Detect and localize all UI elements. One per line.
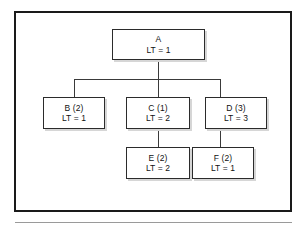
diagram-frame: A LT = 1 B (2) LT = 1 C (1) LT = 2 D (3)… bbox=[14, 11, 292, 212]
node-c-lead-time: LT = 2 bbox=[146, 113, 170, 123]
node-d-name: D (3) bbox=[226, 103, 245, 113]
node-b-lead-time: LT = 1 bbox=[62, 113, 86, 123]
node-d[interactable]: D (3) LT = 3 bbox=[205, 97, 267, 129]
node-f[interactable]: F (2) LT = 1 bbox=[192, 147, 254, 179]
connector-bus-to-b bbox=[74, 79, 75, 97]
node-f-lead-time: LT = 1 bbox=[211, 163, 235, 173]
connector-d-to-f bbox=[220, 129, 221, 147]
node-e-name: E (2) bbox=[149, 153, 168, 163]
connector-bus-horizontal bbox=[74, 79, 221, 80]
node-a[interactable]: A LT = 1 bbox=[112, 29, 205, 60]
node-e[interactable]: E (2) LT = 2 bbox=[126, 147, 190, 179]
connector-c-to-e bbox=[158, 129, 159, 147]
node-f-name: F (2) bbox=[214, 153, 232, 163]
node-c-name: C (1) bbox=[148, 103, 167, 113]
node-d-lead-time: LT = 3 bbox=[224, 113, 248, 123]
footer-rule bbox=[15, 222, 292, 223]
connector-bus-to-c bbox=[158, 79, 159, 97]
node-e-lead-time: LT = 2 bbox=[146, 163, 170, 173]
node-b[interactable]: B (2) LT = 1 bbox=[43, 97, 105, 129]
bill-of-materials-diagram: A LT = 1 B (2) LT = 1 C (1) LT = 2 D (3)… bbox=[0, 0, 305, 236]
connector-bus-to-d bbox=[220, 79, 221, 97]
node-a-lead-time: LT = 1 bbox=[146, 45, 170, 55]
connector-a-down bbox=[158, 60, 159, 79]
node-b-name: B (2) bbox=[65, 103, 84, 113]
node-c[interactable]: C (1) LT = 2 bbox=[126, 97, 190, 129]
node-a-name: A bbox=[156, 34, 162, 44]
